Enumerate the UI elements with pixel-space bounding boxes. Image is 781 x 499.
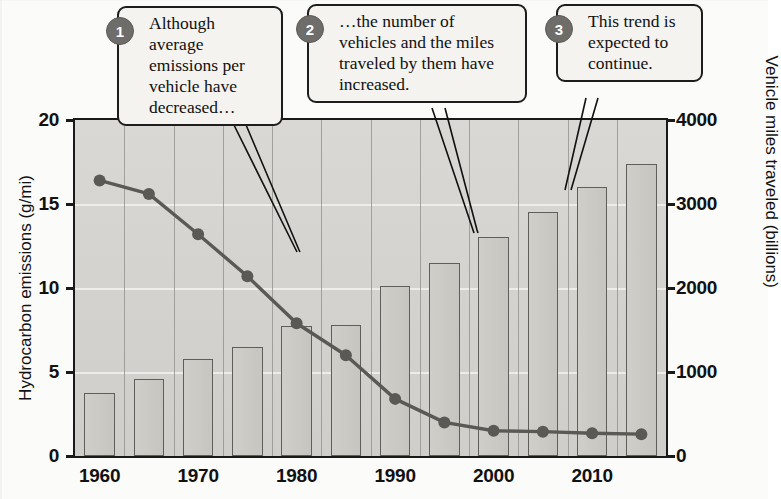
line-marker [635, 428, 647, 440]
axis-tick-label: 2000 [676, 277, 717, 299]
line-marker [537, 426, 549, 438]
axis-tick-label: 20 [0, 109, 59, 131]
axis-tick-label: 4000 [676, 109, 717, 131]
line-marker [340, 349, 352, 361]
y-axis-left-title-text: Hydrocarbon emissions (g/mi) [16, 175, 36, 401]
line-marker [438, 416, 450, 428]
axis-tick-label: 0 [676, 445, 686, 467]
callout-2[interactable]: 2 …the number of vehicles and the miles … [307, 4, 527, 103]
callout-1[interactable]: 1 Although average emissions per vehicle… [117, 6, 283, 126]
x-axis-tick-label: 2010 [572, 465, 613, 487]
axis-tick [66, 119, 75, 122]
line-marker [291, 317, 303, 329]
axis-tick [666, 287, 675, 290]
line-marker [488, 425, 500, 437]
line-marker [192, 228, 204, 240]
line-path [100, 180, 642, 434]
axis-tick [666, 455, 675, 458]
axis-tick [666, 371, 675, 374]
x-axis-tick-label: 1960 [79, 465, 120, 487]
line-marker [389, 393, 401, 405]
callout-3[interactable]: 3 This trend is expected to continue. [556, 4, 703, 82]
axis-tick-label: 0 [0, 445, 59, 467]
line-marker [94, 174, 106, 186]
plot-area [73, 118, 668, 458]
x-axis-tick-label: 1970 [178, 465, 219, 487]
axis-tick [66, 203, 75, 206]
axis-tick [66, 287, 75, 290]
axis-tick-label: 1000 [676, 361, 717, 383]
callout-1-text: Although average emissions per vehicle h… [149, 13, 245, 117]
callout-3-text: This trend is expected to continue. [588, 11, 676, 73]
line-series [75, 120, 666, 456]
callout-3-badge: 3 [545, 15, 573, 43]
axis-tick [666, 203, 675, 206]
line-marker [241, 270, 253, 282]
x-axis-tick-label: 2000 [473, 465, 514, 487]
callout-2-text: …the number of vehicles and the miles tr… [339, 11, 494, 94]
axis-tick [66, 455, 75, 458]
line-marker [143, 188, 155, 200]
line-marker [586, 427, 598, 439]
x-axis-tick-label: 1990 [375, 465, 416, 487]
axis-tick [666, 119, 675, 122]
callout-2-badge: 2 [296, 15, 324, 43]
y-axis-right-title-text: Vehicle miles traveled (billions) [761, 56, 781, 288]
axis-tick-label: 3000 [676, 193, 717, 215]
x-axis-tick-label: 1980 [276, 465, 317, 487]
axis-tick [66, 371, 75, 374]
callout-1-badge: 1 [106, 17, 134, 45]
